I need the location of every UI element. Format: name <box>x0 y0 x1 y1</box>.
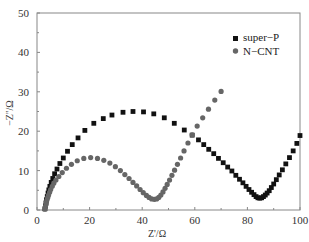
data-point <box>81 156 86 161</box>
data-point <box>190 132 195 137</box>
data-point <box>55 167 60 172</box>
data-point <box>118 168 123 173</box>
x-tick-label: 100 <box>292 214 309 226</box>
data-point <box>101 116 106 121</box>
data-point <box>219 89 224 94</box>
data-point <box>141 109 146 114</box>
data-point <box>196 137 201 142</box>
data-point <box>110 113 115 118</box>
data-point <box>291 149 296 154</box>
data-point <box>212 97 217 102</box>
y-tick-label: 20 <box>18 125 30 137</box>
data-point <box>294 141 299 146</box>
data-point <box>201 142 206 147</box>
data-point <box>185 140 190 145</box>
data-point <box>60 170 65 175</box>
data-point <box>229 169 234 174</box>
data-point <box>277 173 282 178</box>
data-point <box>195 123 200 128</box>
y-tick-label: 30 <box>18 86 30 98</box>
data-point <box>221 160 226 165</box>
data-point <box>206 107 211 112</box>
data-point <box>113 164 118 169</box>
legend: super−P N−CNT <box>233 31 280 57</box>
y-tick-label: 40 <box>18 46 30 58</box>
data-point <box>131 109 136 114</box>
x-tick-label: 0 <box>34 214 40 226</box>
data-point <box>57 161 62 166</box>
series-superp <box>42 109 302 211</box>
chart-canvas: 02040608010001020304050 super−P N−CNT Z'… <box>0 0 309 242</box>
data-point <box>107 161 112 166</box>
data-point <box>75 158 80 163</box>
x-tick-label: 40 <box>137 214 149 226</box>
data-point <box>298 133 303 138</box>
data-point <box>82 128 87 133</box>
data-point <box>126 176 131 181</box>
data-point <box>182 128 187 133</box>
data-point <box>200 115 205 120</box>
y-tick-label: 10 <box>18 165 30 177</box>
data-point <box>65 149 70 154</box>
legend-label-super-p: super−P <box>243 31 279 43</box>
data-point <box>175 162 180 167</box>
x-axis-title: Z'/Ω <box>148 228 166 239</box>
data-point <box>172 168 177 173</box>
data-point <box>64 166 69 171</box>
data-point <box>216 156 221 161</box>
y-tick-label: 50 <box>18 7 30 19</box>
data-point <box>274 177 279 182</box>
data-point <box>167 177 172 182</box>
data-point <box>88 155 93 160</box>
data-point <box>211 151 216 156</box>
data-point <box>162 115 167 120</box>
data-point <box>151 111 156 116</box>
y-tick-label: 0 <box>24 204 30 216</box>
data-point <box>172 121 177 126</box>
nyquist-chart: 02040608010001020304050 super−P N−CNT Z'… <box>0 0 309 242</box>
x-tick-label: 20 <box>84 214 96 226</box>
legend-marker-square-icon <box>233 36 238 41</box>
data-point <box>101 158 106 163</box>
data-point <box>280 167 285 172</box>
data-point <box>287 155 292 160</box>
data-point <box>61 156 66 161</box>
x-tick-label: 60 <box>189 214 201 226</box>
data-point <box>76 135 81 140</box>
data-point <box>95 156 100 161</box>
data-point <box>181 148 186 153</box>
y-axis-title: −Z''/Ω <box>4 100 15 126</box>
legend-marker-circle-icon <box>233 48 238 53</box>
data-point <box>206 147 211 152</box>
data-point <box>52 171 57 176</box>
legend-label-n-cnt: N−CNT <box>243 45 279 57</box>
data-point <box>121 110 126 115</box>
data-point <box>283 162 288 167</box>
data-point <box>56 174 61 179</box>
data-point <box>69 162 74 167</box>
data-point <box>225 165 230 170</box>
data-point <box>178 155 183 160</box>
x-tick-label: 80 <box>242 214 254 226</box>
data-series <box>42 89 302 212</box>
data-point <box>169 173 174 178</box>
data-point <box>122 172 127 177</box>
data-point <box>91 121 96 126</box>
data-point <box>70 142 75 147</box>
data-point <box>271 182 276 187</box>
